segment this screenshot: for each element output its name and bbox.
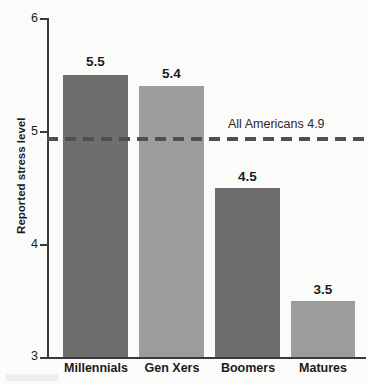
bar-value-gen-xers: 5.4 — [139, 67, 204, 81]
y-tick-label-6: 6 — [16, 12, 38, 25]
y-tick-label-4: 4 — [16, 238, 38, 251]
scan-artifact — [6, 374, 58, 381]
y-tick-mark-3 — [40, 357, 48, 359]
bar-millennials[interactable] — [63, 75, 128, 357]
bar-boomers[interactable] — [215, 188, 280, 357]
y-axis-line — [47, 18, 49, 358]
y-tick-mark-4 — [40, 244, 48, 246]
x-category-label-millennials: Millennials — [56, 362, 136, 375]
x-category-label-matures: Matures — [283, 362, 363, 375]
reference-line-label: All Americans 4.9 — [228, 118, 325, 131]
y-tick-label-3: 3 — [16, 350, 38, 363]
bar-value-millennials: 5.5 — [63, 55, 128, 69]
y-tick-label-5: 5 — [16, 125, 38, 138]
bar-matures[interactable] — [291, 301, 355, 357]
x-category-label-gen-xers: Gen Xers — [132, 362, 212, 375]
y-tick-mark-6 — [40, 18, 48, 20]
reference-line-all-americans — [47, 137, 366, 141]
bar-gen-xers[interactable] — [139, 86, 204, 357]
bar-value-matures: 3.5 — [291, 283, 355, 297]
x-category-label-boomers: Boomers — [208, 362, 288, 375]
x-axis-line — [47, 357, 366, 359]
bar-value-boomers: 4.5 — [215, 170, 280, 184]
y-tick-mark-5 — [40, 131, 48, 133]
bar-chart: Reported stress level 6 5 4 3 5.5 5.4 4.… — [0, 0, 367, 384]
chart-page: Reported stress level 6 5 4 3 5.5 5.4 4.… — [0, 0, 367, 384]
